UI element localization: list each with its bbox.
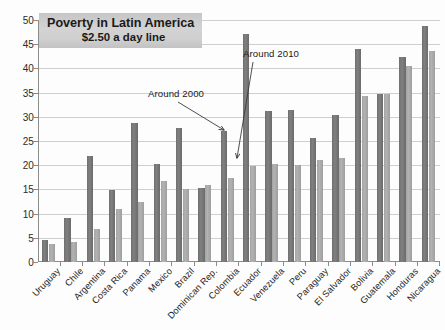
annotation-around-2010: Around 2010 [243,48,299,59]
bar [131,123,137,262]
y-axis-tick-label: 10 [8,208,34,219]
bar [109,190,115,262]
bar [138,202,144,262]
y-axis-tick-label: 30 [8,111,34,122]
bar [399,57,405,262]
bar [94,229,100,262]
bar [42,240,48,262]
bar [116,209,122,262]
bar-group [351,20,373,262]
bar-group [83,20,105,262]
bar-group [418,20,440,262]
y-axis-tick-label: 5 [8,232,34,243]
bar-group [328,20,350,262]
bar-group [194,20,216,262]
bar [377,94,383,262]
bar [310,138,316,262]
bar [49,244,55,262]
bar [332,115,338,262]
bar [205,185,211,262]
bar [250,166,256,262]
bar-group [217,20,239,262]
bar [243,34,249,262]
y-axis-tick-label: 15 [8,184,34,195]
bar [71,242,77,262]
bar [422,26,428,262]
poverty-bar-chart: 05101520253035404550 UruguayChileArgenti… [0,0,445,330]
bar-group [306,20,328,262]
bar [288,110,294,262]
bar [317,160,323,262]
bar-group [172,20,194,262]
x-axis-labels: UruguayChileArgentinaCosta RicaPanamaMex… [38,264,440,330]
y-axis-tick-label: 25 [8,136,34,147]
bar [228,178,234,262]
bar [265,111,271,262]
bar-group [127,20,149,262]
bar [154,164,160,262]
bar [429,51,435,262]
bar [384,94,390,262]
chart-title: Poverty in Latin America [45,16,196,30]
y-axis-tick-label: 0 [8,257,34,268]
bar [355,49,361,262]
bar-group [38,20,60,262]
bar [272,164,278,262]
chart-title-box: Poverty in Latin America $2.50 a day lin… [39,13,202,48]
y-axis-tick-label: 45 [8,39,34,50]
y-axis-tick-label: 20 [8,160,34,171]
bar [198,188,204,262]
bar [406,66,412,262]
bar-group [150,20,172,262]
bar [64,218,70,262]
bar [295,165,301,262]
chart-subtitle: $2.50 a day line [45,30,196,44]
bar-series-container [38,20,440,262]
y-axis-tick-label: 35 [8,87,34,98]
bar [183,189,189,262]
bar-group [395,20,417,262]
bar-group [60,20,82,262]
bar [362,96,368,262]
bar [161,181,167,262]
y-axis-tick-label: 40 [8,63,34,74]
x-axis-label-uruguay: Uruguay [31,266,63,298]
y-axis-tick-label: 50 [8,15,34,26]
y-axis-tick-mark [33,262,38,263]
bar [221,131,227,262]
bar [339,158,345,262]
bar-group [105,20,127,262]
bar [176,128,182,262]
annotation-around-2000: Around 2000 [148,88,204,99]
bar [87,156,93,262]
bar-group [373,20,395,262]
